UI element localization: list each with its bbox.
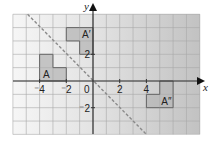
shape-label-A-prime: A′	[82, 29, 91, 40]
x-axis-label: x	[202, 81, 208, 93]
shape-A-cell	[40, 54, 53, 67]
origin-label: 0	[84, 84, 90, 95]
shape-A-double-prime-cell	[146, 94, 159, 107]
x-tick-label: 2	[117, 84, 123, 95]
coordinate-grid-diagram: x y 0 ⁻4⁻2242⁻2 AA′A″	[0, 0, 214, 143]
y-tick-label: ⁻2	[79, 103, 90, 114]
shape-label-A: A	[43, 69, 50, 80]
y-axis-label: y	[83, 0, 89, 12]
shape-A-double-prime-cell	[160, 81, 173, 94]
shape-A-prime-cell	[66, 28, 79, 41]
y-tick-label: 2	[84, 49, 90, 60]
x-tick-label: ⁻2	[61, 84, 72, 95]
x-tick-label: 4	[144, 84, 150, 95]
x-tick-label: ⁻4	[34, 84, 45, 95]
shape-A-cell	[53, 68, 66, 81]
y-axis-arrow-icon	[89, 3, 97, 11]
shape-label-A-double-prime: A″	[161, 96, 172, 107]
